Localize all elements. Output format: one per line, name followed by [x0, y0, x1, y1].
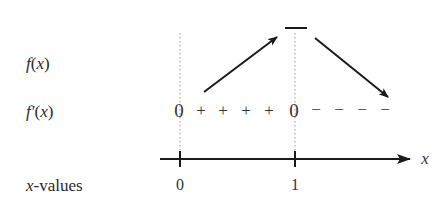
fprime-zero-left: 0: [174, 100, 184, 121]
plus-sign: +: [196, 101, 206, 120]
sign-chart-diagram: f(x) f′(x) x-values 0 + + + + 0 − − −: [0, 0, 444, 208]
fprime-zero-right: 0: [289, 100, 299, 121]
plus-sign: +: [218, 101, 228, 120]
plus-sign: +: [264, 101, 274, 120]
minus-sign: −: [311, 100, 321, 119]
plus-sign: +: [241, 101, 251, 120]
minus-sign: −: [357, 100, 367, 119]
tick-label-0: 0: [176, 176, 184, 193]
minus-sign: −: [380, 100, 390, 119]
increasing-arrow-icon: [204, 37, 277, 92]
tick-label-1: 1: [291, 176, 299, 193]
minus-sign: −: [334, 100, 344, 119]
axis-variable-label: x: [420, 149, 429, 168]
diagram-graphics: 0 + + + + 0 − − − − x 0 1: [0, 0, 444, 208]
decreasing-arrow-icon: [315, 38, 388, 97]
